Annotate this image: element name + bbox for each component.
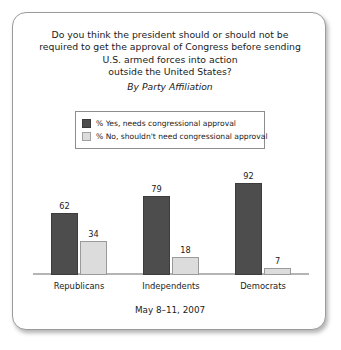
bar-group-independents: 79 18 Independents: [125, 163, 217, 275]
bar-independents-yes: 79: [143, 185, 170, 275]
title-line-2: required to get the approval of Congress…: [21, 41, 319, 53]
bar-democrats-yes: 92: [235, 172, 262, 275]
bar-value-independents-no: 18: [180, 246, 190, 255]
legend-label-no: % No, shouldn't need congressional appro…: [96, 132, 268, 141]
chart-card: Do you think the president should or sho…: [12, 12, 326, 330]
legend-label-yes: % Yes, needs congressional approval: [96, 119, 236, 128]
bar-value-republicans-no: 34: [88, 230, 98, 239]
bar-democrats-no: 7: [264, 257, 291, 275]
bar-rect-democrats-yes: [235, 183, 262, 275]
x-tick-label-democrats: Democrats: [217, 281, 309, 291]
chart-subtitle: By Party Affiliation: [21, 80, 319, 93]
chart-plot-area: 62 34 Republicans 79 18: [33, 163, 309, 293]
title-line-3: U.S. armed forces into action: [21, 54, 319, 66]
bar-republicans-yes: 62: [51, 202, 78, 275]
chart-footer-date: May 8–11, 2007: [21, 305, 319, 315]
x-tick-label-independents: Independents: [125, 281, 217, 291]
bar-value-democrats-yes: 92: [243, 172, 253, 181]
chart-title-block: Do you think the president should or sho…: [21, 29, 319, 93]
bar-independents-no: 18: [172, 246, 199, 275]
bar-rect-republicans-yes: [51, 213, 78, 275]
bar-rect-independents-yes: [143, 196, 170, 275]
chart-legend: % Yes, needs congressional approval % No…: [75, 111, 265, 149]
title-line-1: Do you think the president should or sho…: [21, 29, 319, 41]
bar-group-democrats: 92 7 Democrats: [217, 163, 309, 275]
bar-group-republicans: 62 34 Republicans: [33, 163, 125, 275]
legend-swatch-yes-icon: [82, 119, 91, 128]
bar-value-republicans-yes: 62: [59, 202, 69, 211]
legend-item-yes: % Yes, needs congressional approval: [82, 117, 258, 129]
bar-rect-independents-no: [172, 257, 199, 275]
legend-swatch-no-icon: [82, 132, 91, 141]
bar-value-democrats-no: 7: [275, 257, 280, 266]
title-line-4: outside the United States?: [21, 66, 319, 78]
bar-value-independents-yes: 79: [151, 185, 161, 194]
bar-rect-democrats-no: [264, 268, 291, 275]
legend-item-no: % No, shouldn't need congressional appro…: [82, 130, 258, 142]
bar-republicans-no: 34: [80, 230, 107, 275]
x-tick-label-republicans: Republicans: [33, 281, 125, 291]
bar-rect-republicans-no: [80, 241, 107, 275]
